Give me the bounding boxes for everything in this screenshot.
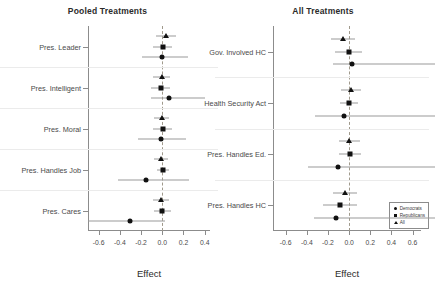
estimate-marker-all: [159, 115, 165, 120]
x-axis-tick-label: 0.0: [158, 239, 167, 246]
y-axis-category-label: Pres. Cares: [42, 206, 81, 215]
x-axis-tick-label: 0.4: [200, 239, 209, 246]
estimate-marker-democrats: [350, 62, 355, 67]
y-axis-tick: [83, 211, 88, 212]
confidence-interval-bar: [315, 115, 435, 116]
category-separator: [215, 180, 429, 181]
x-axis-tick-label: -0.6: [93, 239, 105, 246]
estimate-marker-democrats: [336, 164, 341, 169]
confidence-interval-bar: [118, 179, 189, 180]
estimate-marker-republicans: [161, 167, 166, 172]
x-axis-line-all: [273, 230, 421, 231]
estimate-marker-all: [163, 33, 169, 38]
estimate-marker-republicans: [346, 49, 351, 54]
estimate-marker-democrats: [159, 136, 164, 141]
estimate-marker-all: [342, 190, 348, 195]
x-axis-tick: [307, 231, 308, 235]
x-axis-tick: [120, 231, 121, 235]
estimate-marker-all: [158, 197, 164, 202]
x-axis-tick: [162, 231, 163, 235]
estimate-marker-all: [159, 74, 165, 79]
y-axis-category-label: Gov. Involved HC: [209, 47, 266, 56]
confidence-interval-bar: [151, 97, 205, 98]
category-separator: [215, 129, 429, 130]
x-axis-tick-label: 0.4: [387, 239, 396, 246]
y-axis-tick: [268, 205, 273, 206]
panel-title-pooled: Pooled Treatments: [0, 6, 215, 16]
y-axis-category-label: Pres. Handles HC: [208, 201, 266, 210]
estimate-marker-all: [158, 156, 164, 161]
estimate-marker-republicans: [160, 44, 165, 49]
y-axis-tick: [268, 154, 273, 155]
y-axis-tick: [268, 52, 273, 53]
x-axis-title-pooled: Effect: [88, 268, 210, 279]
x-axis-tick-label: 0.0: [344, 239, 353, 246]
estimate-marker-democrats: [166, 95, 171, 100]
x-axis-tick-label: -0.2: [322, 239, 334, 246]
y-axis-tick: [268, 103, 273, 104]
y-axis-tick: [83, 170, 88, 171]
legend-item-label: Democrats: [400, 205, 422, 212]
category-separator: [0, 149, 218, 150]
x-axis-tick-label: -0.6: [280, 239, 292, 246]
legend-item-label: All: [400, 219, 405, 226]
estimate-marker-republicans: [338, 203, 343, 208]
x-axis-tick: [286, 231, 287, 235]
y-axis-category-label: Pres. Moral: [44, 124, 81, 133]
x-axis-tick-label: -0.4: [114, 239, 126, 246]
x-axis-tick-label: -0.4: [301, 239, 313, 246]
confidence-interval-bar: [333, 64, 435, 65]
x-axis-tick: [413, 231, 414, 235]
confidence-interval-bar: [308, 166, 435, 167]
triangle-marker-icon: [392, 221, 400, 224]
category-separator: [215, 77, 429, 78]
x-axis-tick: [99, 231, 100, 235]
x-axis-tick: [141, 231, 142, 235]
y-axis-tick: [83, 88, 88, 89]
x-axis-tick: [205, 231, 206, 235]
estimate-marker-all: [340, 36, 346, 41]
category-separator: [0, 190, 218, 191]
confidence-interval-bar: [142, 56, 188, 57]
y-axis-category-label: Pres. Handles Job: [21, 165, 81, 174]
x-axis-tick-label: 0.6: [408, 239, 417, 246]
plot-area-all: Effect DemocratsRepublicansAll -0.6-0.4-…: [273, 26, 421, 231]
category-separator: [0, 108, 218, 109]
estimate-marker-democrats: [334, 216, 339, 221]
plot-area-pooled: Effect -0.6-0.4-0.20.00.20.4Pres. Leader…: [88, 26, 210, 231]
estimate-marker-republicans: [347, 100, 352, 105]
panel-pooled-treatments: Pooled Treatments Effect -0.6-0.4-0.20.0…: [0, 0, 215, 288]
y-axis-line-pooled: [88, 26, 89, 231]
y-axis-category-label: Pres. Intelligent: [31, 83, 81, 92]
x-axis-tick: [328, 231, 329, 235]
estimate-marker-all: [346, 138, 352, 143]
estimate-marker-all: [348, 87, 354, 92]
x-axis-line-pooled: [88, 230, 210, 231]
x-axis-tick: [370, 231, 371, 235]
estimate-marker-democrats: [342, 113, 347, 118]
estimate-marker-republicans: [158, 85, 163, 90]
legend-item: Democrats: [392, 205, 425, 212]
y-axis-category-label: Pres. Leader: [39, 42, 81, 51]
y-axis-tick: [83, 129, 88, 130]
x-axis-tick: [349, 231, 350, 235]
confidence-interval-bar: [314, 218, 435, 219]
y-axis-category-label: Health Security Act: [204, 98, 266, 107]
x-axis-tick-label: 0.2: [179, 239, 188, 246]
estimate-marker-democrats: [127, 218, 132, 223]
x-axis-tick: [183, 231, 184, 235]
circle-marker-icon: [392, 207, 400, 210]
estimate-marker-democrats: [143, 177, 148, 182]
estimate-marker-republicans: [160, 126, 165, 131]
estimate-marker-republicans: [160, 208, 165, 213]
estimate-marker-democrats: [160, 54, 165, 59]
legend-item: All: [392, 219, 425, 226]
x-axis-tick-label: -0.2: [135, 239, 147, 246]
panel-title-all: All Treatments: [215, 6, 431, 16]
x-axis-tick-label: 0.2: [366, 239, 375, 246]
y-axis-tick: [83, 47, 88, 48]
legend: DemocratsRepublicansAll: [389, 202, 429, 229]
y-axis-category-label: Pres. Handles Ed.: [207, 150, 266, 159]
x-axis-title-all: Effect: [273, 268, 421, 279]
x-axis-tick: [391, 231, 392, 235]
